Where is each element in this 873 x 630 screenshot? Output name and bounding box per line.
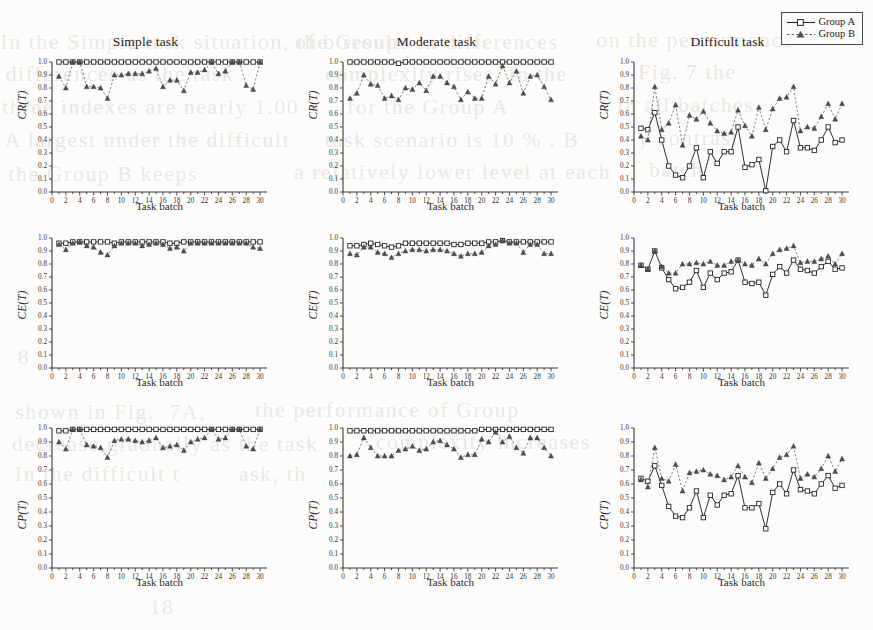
data-point-marker: [771, 144, 775, 148]
data-point-marker: [147, 427, 151, 431]
data-point-marker: [736, 107, 741, 112]
data-point-marker: [91, 84, 96, 89]
plot-area: 0.00.10.20.30.40.50.60.70.80.91.00246810…: [52, 62, 267, 192]
data-point-marker: [791, 118, 795, 122]
data-point-marker: [666, 120, 671, 125]
series-line-group-a: [641, 466, 842, 529]
data-point-marker: [175, 60, 179, 64]
y-tick-label: 0.0: [329, 188, 338, 196]
plot-area: 0.00.10.20.30.40.50.60.70.80.91.00246810…: [343, 62, 558, 192]
y-tick-label: 0.5: [329, 123, 338, 131]
plot-area: 0.00.10.20.30.40.50.60.70.80.91.00246810…: [343, 428, 558, 568]
data-point-marker: [417, 80, 422, 85]
data-point-marker: [743, 280, 747, 284]
data-point-marker: [465, 251, 470, 256]
y-tick-label: 0.4: [620, 312, 629, 320]
y-axis-title: CP(T): [598, 501, 610, 530]
plot-area: 0.00.10.20.30.40.50.60.70.80.91.00246810…: [343, 238, 558, 368]
data-point-marker: [673, 173, 677, 177]
y-tick-label: 0.5: [38, 123, 47, 131]
data-point-marker: [812, 492, 816, 496]
data-point-marker: [216, 427, 220, 431]
data-point-marker: [750, 163, 754, 167]
data-point-marker: [396, 251, 401, 256]
data-point-marker: [459, 429, 463, 433]
data-point-marker: [798, 128, 803, 133]
data-point-marker: [507, 80, 512, 85]
data-point-marker: [161, 60, 165, 64]
y-tick-label: 1.0: [38, 58, 47, 66]
data-point-marker: [410, 241, 414, 245]
legend-symbol-group-b-icon: [786, 29, 816, 40]
data-point-marker: [105, 60, 109, 64]
data-point-marker: [708, 493, 712, 497]
y-tick-label: 0.7: [329, 97, 338, 105]
data-point-marker: [140, 427, 144, 431]
data-point-marker: [694, 260, 699, 265]
data-point-marker: [362, 60, 366, 64]
data-point-marker: [708, 150, 712, 154]
plot-area: 0.00.10.20.30.40.50.60.70.80.91.00246810…: [634, 238, 849, 368]
data-point-marker: [819, 264, 823, 268]
chart-svg-simple-cr: 0.00.10.20.30.40.50.60.70.80.91.00246810…: [52, 62, 267, 208]
data-point-marker: [251, 87, 256, 92]
data-point-marker: [223, 427, 227, 431]
data-point-marker: [729, 474, 734, 479]
data-point-marker: [756, 105, 761, 110]
data-point-marker: [347, 251, 352, 256]
data-point-marker: [466, 241, 470, 245]
y-tick-label: 0.4: [620, 508, 629, 516]
y-tick-label: 0.3: [329, 149, 338, 157]
data-point-marker: [195, 437, 200, 442]
data-point-marker: [791, 243, 796, 248]
data-point-marker: [833, 117, 838, 122]
x-axis-title: Task batch: [634, 576, 849, 588]
data-point-marker: [168, 241, 172, 245]
data-point-marker: [687, 280, 691, 284]
data-point-marker: [521, 240, 525, 244]
data-point-marker: [348, 60, 352, 64]
data-point-marker: [175, 427, 179, 431]
y-tick-label: 0.3: [38, 325, 47, 333]
y-tick-label: 0.1: [620, 175, 629, 183]
data-point-marker: [528, 60, 532, 64]
data-point-marker: [521, 60, 525, 64]
y-tick-label: 0.2: [38, 162, 47, 170]
data-point-marker: [119, 437, 124, 442]
data-point-marker: [833, 267, 837, 271]
data-point-marker: [181, 88, 186, 93]
data-point-marker: [521, 427, 525, 431]
data-point-marker: [722, 493, 726, 497]
data-point-marker: [771, 272, 775, 276]
data-point-marker: [140, 60, 144, 64]
data-point-marker: [445, 429, 449, 433]
y-tick-label: 1.0: [329, 424, 338, 432]
data-point-marker: [410, 429, 414, 433]
data-point-marker: [438, 241, 442, 245]
data-point-marker: [784, 246, 789, 251]
data-point-marker: [736, 463, 741, 468]
chart-cell-difficult-cp: CP(T) 0.00.10.20.30.40.50.60.70.80.91.00…: [582, 400, 873, 630]
y-axis-title: CR(T): [16, 91, 28, 120]
chart-svg-simple-ce: 0.00.10.20.30.40.50.60.70.80.91.00246810…: [52, 238, 267, 384]
chart-cell-moderate-cr: Moderate task CR(T) 0.00.10.20.30.40.50.…: [291, 0, 582, 210]
data-point-marker: [133, 60, 137, 64]
data-point-marker: [840, 251, 845, 256]
data-point-marker: [798, 476, 803, 481]
data-point-marker: [694, 146, 698, 150]
data-point-marker: [56, 74, 61, 79]
data-point-marker: [84, 442, 89, 447]
y-tick-label: 0.2: [38, 338, 47, 346]
y-tick-label: 0.9: [620, 438, 629, 446]
data-point-marker: [182, 60, 186, 64]
legend-label-group-a: Group A: [819, 16, 855, 28]
data-point-marker: [140, 439, 145, 444]
data-point-marker: [514, 68, 519, 73]
data-point-marker: [244, 427, 248, 431]
data-point-marker: [480, 241, 484, 245]
data-point-marker: [756, 460, 761, 465]
y-tick-label: 0.0: [38, 188, 47, 196]
data-point-marker: [98, 60, 102, 64]
data-point-marker: [63, 247, 68, 252]
data-point-marker: [244, 60, 248, 64]
